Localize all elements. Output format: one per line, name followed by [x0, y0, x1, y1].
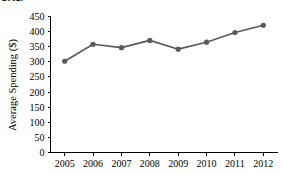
data-point-marker — [119, 45, 124, 50]
series-markers — [62, 23, 266, 64]
line-chart-figure: Average Spending ($) 0501001502002503003… — [0, 0, 282, 175]
y-tick-label: 450 — [30, 11, 45, 22]
y-tick-label: 350 — [30, 41, 45, 52]
chart-canvas: Average Spending ($) 0501001502002503003… — [0, 0, 282, 175]
y-tick-label: 0 — [40, 147, 45, 158]
x-axis-ticks: 20052006200720082009201020112012 — [55, 153, 274, 169]
x-tick-label: 2005 — [55, 158, 75, 169]
y-tick-label: 50 — [35, 132, 45, 143]
x-tick-label: 2011 — [225, 158, 245, 169]
data-point-marker — [147, 38, 152, 43]
x-tick-label: 2012 — [253, 158, 273, 169]
x-tick-label: 2006 — [83, 158, 103, 169]
y-tick-label: 100 — [30, 117, 45, 128]
data-series-average-spending — [62, 23, 266, 64]
y-tick-label: 400 — [30, 26, 45, 37]
data-point-marker — [90, 42, 95, 47]
y-tick-label: 150 — [30, 102, 45, 113]
data-point-marker — [232, 30, 237, 35]
data-point-marker — [261, 23, 266, 28]
y-tick-label: 200 — [30, 87, 45, 98]
x-tick-label: 2009 — [168, 158, 188, 169]
data-point-marker — [176, 47, 181, 52]
y-tick-label: 300 — [30, 56, 45, 67]
y-axis-title: Average Spending ($) — [7, 39, 19, 131]
y-tick-label: 250 — [30, 71, 45, 82]
x-tick-label: 2010 — [197, 158, 217, 169]
y-axis-title-text: Average Spending ($) — [7, 39, 19, 131]
data-point-marker — [62, 59, 67, 64]
x-tick-label: 2007 — [111, 158, 131, 169]
data-point-marker — [204, 40, 209, 45]
y-axis-ticks: 050100150200250300350400450 — [30, 11, 51, 158]
x-tick-label: 2008 — [140, 158, 160, 169]
